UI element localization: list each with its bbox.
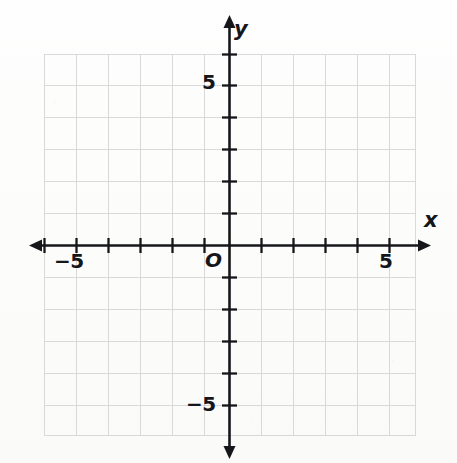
y-tick-label-5: 5 [202,72,215,92]
x-tick-label--5: −5 [54,251,84,271]
y-axis-down-arrowhead [224,446,236,459]
axes [29,15,431,459]
x-tick-label-5: 5 [379,251,392,271]
y-axis-name-label: y [234,19,248,40]
x-axis-left-arrowhead [29,240,42,252]
y-tick-label--5: −5 [186,394,216,414]
origin-label: O [205,250,222,270]
coordinate-plane-canvas [0,0,457,463]
coordinate-plane-figure: x y O −5 5 5 −5 [0,0,457,463]
x-axis-right-arrowhead [418,240,431,252]
x-axis-name-label: x [424,210,438,231]
